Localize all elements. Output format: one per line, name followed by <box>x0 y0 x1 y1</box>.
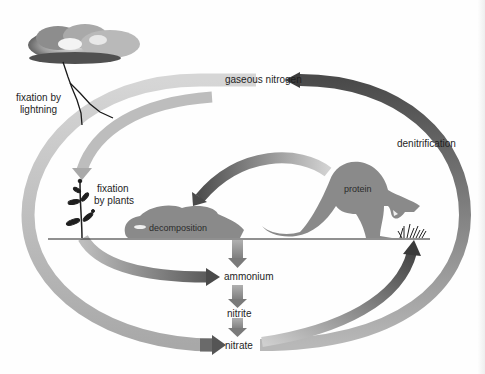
node-ammonium: ammonium <box>224 271 273 283</box>
node-nitrate: nitrate <box>225 340 253 352</box>
label-fixation-plants: fixation by plants <box>94 183 134 207</box>
arrow-nitrate-to-grass <box>262 240 421 342</box>
kangaroo-icon <box>262 162 420 238</box>
label-line: by plants <box>94 195 134 207</box>
node-decomposition: decomposition <box>149 223 207 234</box>
label-line: lightning <box>16 104 61 116</box>
grass-icon <box>398 224 426 238</box>
label-denitrification: denitrification <box>397 138 456 150</box>
nitrogen-cycle-diagram: gaseous nitrogen fixation by lightning f… <box>0 0 485 374</box>
label-fixation-lightning: fixation by lightning <box>16 92 61 116</box>
plant-icon <box>66 179 95 238</box>
node-gaseous-nitrogen: gaseous nitrogen <box>225 74 302 86</box>
arrow-decomposition-to-ammonium <box>228 240 247 268</box>
node-protein: protein <box>344 184 372 195</box>
label-line: fixation <box>94 183 134 195</box>
arrow-protein-to-decomposition <box>192 158 328 206</box>
node-nitrite: nitrite <box>227 308 251 320</box>
label-line: fixation by <box>16 92 61 104</box>
page-edge-shadow <box>477 0 485 374</box>
arrow-nitrite-to-nitrate <box>228 318 247 337</box>
arrow-ammonium-to-nitrite <box>228 285 247 308</box>
storm-cloud-icon <box>28 24 140 64</box>
arrow-plant-to-ammonium <box>83 238 220 286</box>
